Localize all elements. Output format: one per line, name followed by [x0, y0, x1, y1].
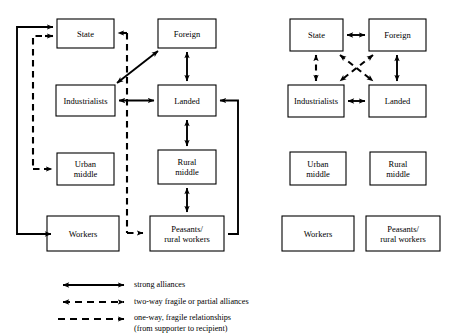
- node-box-peasants[interactable]: [150, 216, 224, 251]
- node-box-landed-right[interactable]: [369, 85, 426, 117]
- edge-peasants-landed: [220, 101, 238, 235]
- node-box-state[interactable]: [57, 19, 114, 48]
- node-box-state-right[interactable]: [290, 19, 343, 51]
- right-diagram-boxes: [282, 19, 440, 251]
- node-box-landed[interactable]: [158, 85, 216, 116]
- node-box-industrialists-right[interactable]: [288, 85, 344, 117]
- legend-label-strong: strong alliances: [134, 280, 185, 291]
- legend-label-one-way-fragile: one-way, fragile relationships (from sup…: [134, 313, 231, 334]
- right-diagram-fragile-edges: [316, 55, 373, 81]
- node-box-rural-middle-right[interactable]: [370, 152, 426, 185]
- node-box-urban-middle[interactable]: [57, 153, 114, 185]
- node-box-foreign[interactable]: [158, 19, 216, 48]
- node-box-foreign-right[interactable]: [369, 19, 426, 51]
- node-box-workers[interactable]: [47, 216, 119, 251]
- node-box-peasants-right[interactable]: [366, 216, 440, 251]
- edge-workers-state: [17, 27, 53, 234]
- edge-industrialists-foreign: [117, 51, 158, 83]
- node-box-rural-middle[interactable]: [158, 150, 216, 184]
- node-box-urban-middle-right[interactable]: [290, 152, 346, 185]
- node-box-industrialists[interactable]: [56, 85, 115, 116]
- legend-label-two-way-fragile: two-way fragile or partial alliances: [134, 297, 249, 308]
- legend-samples: [58, 285, 124, 319]
- edge-fragile-left-trunk: [33, 36, 53, 169]
- left-diagram-fragile-edges: [33, 33, 143, 233]
- node-box-workers-right[interactable]: [282, 216, 354, 251]
- left-diagram-boxes: [47, 19, 224, 251]
